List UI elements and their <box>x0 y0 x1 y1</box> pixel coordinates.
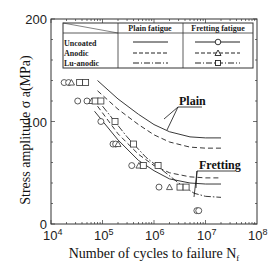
svg-text:Plain: Plain <box>179 94 206 108</box>
square-marker <box>92 98 98 104</box>
square-marker <box>140 163 146 169</box>
x-tick-1e6: 106 <box>145 227 164 243</box>
legend: Plain fatigue Fretting fatigue Uncoated … <box>63 23 253 68</box>
legend-row-lu-anodic: Lu-anodic <box>64 59 100 68</box>
sn-curve-chart: Stress amplitude σ a(MPa) 0 100 200 104 … <box>0 0 278 271</box>
x-tick-1e7: 107 <box>197 227 216 243</box>
circle-marker <box>196 208 202 214</box>
square-marker <box>183 184 189 190</box>
square-marker <box>77 80 83 86</box>
x-tick-labels: 104 105 106 107 108 <box>43 227 267 243</box>
circle-marker <box>156 184 162 190</box>
y-tick-200: 200 <box>25 12 47 27</box>
x-tick-1e8: 108 <box>248 227 267 243</box>
circle-marker <box>129 163 135 169</box>
square-marker <box>177 184 183 190</box>
square-marker <box>155 163 161 169</box>
curve <box>98 81 221 138</box>
legend-row-anodic: Anodic <box>64 49 89 58</box>
legend-col-fretting: Fretting fatigue <box>191 24 245 33</box>
annotation-plain: Plain <box>164 94 206 130</box>
legend-row-uncoated: Uncoated <box>64 39 97 48</box>
x-tick-1e4: 104 <box>43 227 62 243</box>
triangle-marker <box>167 184 173 190</box>
square-marker <box>98 98 104 104</box>
square-marker <box>112 119 118 125</box>
square-marker <box>83 80 89 86</box>
legend-col-plain: Plain fatigue <box>128 24 172 33</box>
x-tick-1e5: 105 <box>94 227 113 243</box>
circle-marker <box>98 119 104 125</box>
circle-marker <box>75 98 81 104</box>
y-tick-100: 100 <box>25 115 47 130</box>
square-marker <box>131 141 137 147</box>
svg-text:Fretting: Fretting <box>199 158 241 172</box>
x-axis-title: Number of cycles to failure Nf <box>69 246 240 263</box>
